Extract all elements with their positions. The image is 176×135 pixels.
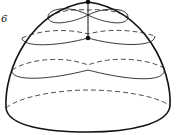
saddle-point <box>86 36 91 41</box>
figure-label: 6 <box>1 13 7 24</box>
level-3-curve-solid <box>12 68 164 79</box>
base-ellipse-dashed <box>6 90 170 108</box>
level-3-curve-dashed <box>12 59 164 70</box>
dome-diagram <box>0 0 176 135</box>
top-point <box>86 0 91 4</box>
